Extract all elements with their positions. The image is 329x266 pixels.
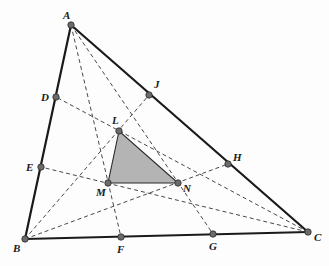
side-ab — [25, 25, 71, 239]
label-f: F — [116, 243, 125, 255]
side-bc — [25, 232, 308, 239]
label-h: H — [232, 151, 242, 163]
cevian-cd — [56, 97, 308, 232]
point-h — [225, 161, 231, 167]
point-labels: A B C D E F G H J L M N — [12, 9, 322, 255]
label-n: N — [182, 182, 192, 194]
label-j: J — [153, 78, 160, 90]
label-l: L — [111, 114, 119, 126]
side-ca — [71, 25, 308, 232]
triangle-sides — [25, 25, 308, 239]
cevian-af — [71, 25, 121, 237]
label-c: C — [314, 231, 322, 243]
geometry-figure: A B C D E F G H J L M N — [0, 0, 329, 266]
triangle-diagram: A B C D E F G H J L M N — [0, 0, 329, 266]
label-g: G — [209, 240, 217, 252]
label-d: D — [40, 91, 49, 103]
label-a: A — [62, 9, 70, 21]
dashed-cevians — [25, 25, 308, 239]
point-g — [210, 231, 216, 237]
point-b — [22, 236, 28, 242]
label-b: B — [12, 242, 20, 254]
point-n — [175, 180, 181, 186]
point-a — [68, 22, 74, 28]
point-e — [38, 164, 44, 170]
label-m: M — [95, 186, 107, 198]
label-e: E — [25, 161, 33, 173]
point-f — [118, 234, 124, 240]
point-j — [146, 92, 152, 98]
point-l — [116, 128, 122, 134]
point-c — [305, 229, 311, 235]
point-d — [53, 94, 59, 100]
shaded-triangle-lmn — [108, 131, 178, 183]
